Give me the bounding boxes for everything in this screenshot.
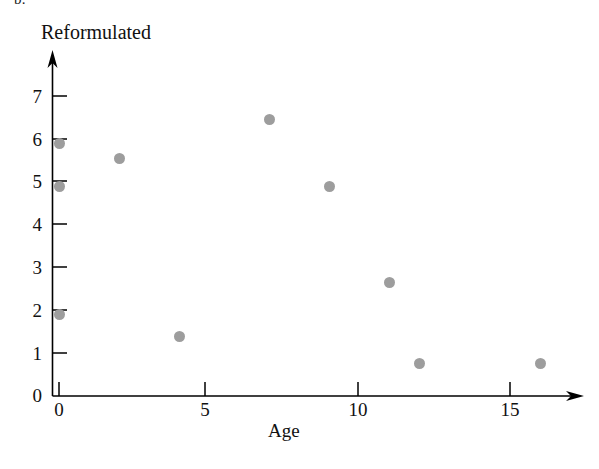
- data-point: [535, 358, 546, 369]
- x-axis-ticks: [59, 382, 510, 396]
- y-tick-label-2: 2: [20, 301, 42, 320]
- y-tick-label-0: 0: [20, 386, 42, 405]
- y-tick-label-7: 7: [20, 87, 42, 106]
- y-tick-label-6: 6: [20, 130, 42, 149]
- data-point: [54, 309, 65, 320]
- x-tick-label-10: 10: [343, 400, 373, 419]
- y-tick-label-4: 4: [20, 215, 42, 234]
- scatter-plot-figure: b. Reformulated Age: [0, 0, 599, 469]
- y-tick-label-1: 1: [20, 344, 42, 363]
- y-tick-label-5: 5: [20, 172, 42, 191]
- x-tick-label-0: 0: [44, 400, 74, 419]
- x-tick-label-5: 5: [190, 400, 220, 419]
- y-tick-label-3: 3: [20, 258, 42, 277]
- data-point: [114, 153, 125, 164]
- x-tick-label-15: 15: [495, 400, 525, 419]
- data-point: [54, 138, 65, 149]
- data-point: [54, 181, 65, 192]
- data-point: [324, 181, 335, 192]
- data-point: [174, 331, 185, 342]
- data-point: [264, 114, 275, 125]
